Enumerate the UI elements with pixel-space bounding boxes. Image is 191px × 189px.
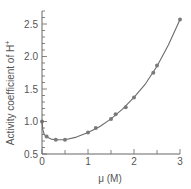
fit-curve: [42, 20, 180, 140]
data-point: [109, 117, 113, 121]
data-point: [151, 71, 155, 75]
x-tick-label: 2: [131, 156, 137, 167]
data-point: [114, 112, 118, 116]
data-point: [132, 95, 136, 99]
y-axis-label-superscript: +: [4, 41, 11, 45]
data-point: [54, 138, 58, 142]
y-axis-label-text: Activity coefficient of H: [5, 45, 16, 145]
plot-area: [40, 17, 182, 141]
data-point: [124, 105, 128, 109]
activity-coefficient-chart: 0.51.01.52.02.50123 μ (M) Activity coeff…: [0, 0, 191, 189]
y-tick-label: 0.5: [24, 149, 38, 160]
y-tick-label: 2.0: [24, 51, 38, 62]
y-tick-label: 1.5: [24, 84, 38, 95]
y-tick-label: 2.5: [24, 19, 38, 30]
y-axis-label: Activity coefficient of H+: [4, 41, 16, 146]
data-point: [94, 126, 98, 130]
x-axis-label: μ (M): [98, 173, 122, 184]
axes: 0.51.01.52.02.50123: [24, 11, 183, 167]
data-point: [45, 134, 49, 138]
x-tick-label: 3: [177, 156, 183, 167]
y-tick-label: 1.0: [24, 116, 38, 127]
data-point: [178, 17, 182, 21]
data-point: [63, 138, 67, 142]
data-point: [86, 131, 90, 135]
x-tick-label: 1: [85, 156, 91, 167]
data-point: [155, 64, 159, 68]
x-tick-label: 0: [39, 156, 45, 167]
